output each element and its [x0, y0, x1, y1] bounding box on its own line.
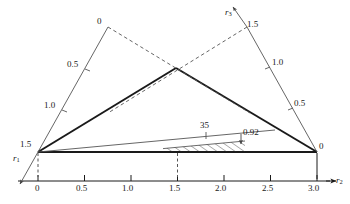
x-tick-label-0-5: 0.5 — [76, 184, 87, 193]
axis-label-r3: r3 — [225, 8, 232, 18]
r3-tick-0-5 — [288, 108, 293, 110]
label-r3-0-5: 0.5 — [294, 99, 305, 108]
drop-lines-group — [38, 153, 317, 179]
ternary-diagram-figure: 0 1.5 0.5 1.0 1.5 1.0 0.5 0 35 0.92 r1 r… — [0, 0, 350, 204]
label-r1-1-5: 1.5 — [20, 140, 31, 149]
label-r1-zero: 0 — [97, 17, 102, 26]
x-tick-label-1-0: 1.0 — [122, 184, 133, 193]
label-r1-1-0: 1.0 — [44, 101, 55, 110]
x-tick-label-3-0: 3.0 — [308, 184, 319, 193]
x-tick-label-2-0: 2.0 — [215, 184, 226, 193]
x-tick-label-1-5: 1.5 — [169, 184, 180, 193]
label-r3-0: 0 — [319, 142, 324, 151]
label-r3-1-0: 1.0 — [272, 58, 283, 67]
label-r1-0-5: 0.5 — [67, 60, 78, 69]
r1-tick-0-5 — [85, 69, 90, 71]
label-angle-35: 35 — [200, 121, 209, 130]
r1-tick-1-0 — [62, 110, 67, 112]
label-region-0-92: 0.92 — [243, 128, 259, 137]
r1-scale-line — [38, 27, 108, 152]
dashed-line-from-top-left — [108, 27, 250, 113]
x-tick-label-0: 0 — [35, 184, 40, 193]
x-tick-label-2-5: 2.5 — [262, 184, 273, 193]
r3-axis-arrow — [233, 7, 247, 27]
triangle-left-side — [38, 68, 176, 152]
label-r3-end: 1.5 — [247, 20, 258, 29]
axis-label-r1: r1 — [13, 154, 20, 164]
r3-tick-1-0 — [265, 67, 270, 69]
axis-label-r2: r2 — [336, 176, 343, 186]
r1-axis-arrow — [20, 152, 38, 184]
